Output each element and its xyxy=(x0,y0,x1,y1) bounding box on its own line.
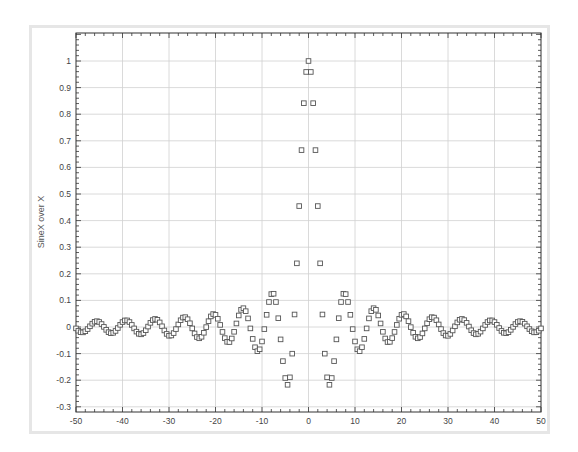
data-point xyxy=(376,313,381,318)
data-point xyxy=(420,331,425,336)
x-tick-label: 50 xyxy=(536,416,546,426)
data-point xyxy=(243,309,248,314)
data-point xyxy=(378,321,383,326)
data-point xyxy=(306,59,311,64)
x-tick-label: -30 xyxy=(163,416,176,426)
data-point xyxy=(206,319,211,324)
data-point xyxy=(267,300,272,305)
data-point xyxy=(188,321,193,326)
data-point xyxy=(392,330,397,335)
y-axis-title: SineX over X xyxy=(36,196,46,249)
data-point xyxy=(290,351,295,356)
data-point xyxy=(436,322,441,327)
data-point xyxy=(395,323,400,328)
data-point xyxy=(329,376,334,381)
data-point xyxy=(346,300,351,305)
data-point xyxy=(336,316,341,321)
data-point xyxy=(260,339,265,344)
data-point xyxy=(422,326,427,331)
x-tick-label: -10 xyxy=(256,416,269,426)
data-point xyxy=(232,329,237,334)
data-point xyxy=(322,351,327,356)
data-point xyxy=(248,326,253,331)
data-point xyxy=(318,261,323,266)
y-tick-label: 0.4 xyxy=(59,216,71,226)
grid-lines xyxy=(76,33,541,412)
data-point xyxy=(274,300,279,305)
x-tick-label: 10 xyxy=(350,416,360,426)
data-point xyxy=(295,261,300,266)
data-point xyxy=(350,327,355,332)
y-tick-label: -0.2 xyxy=(56,375,71,385)
data-point xyxy=(381,329,386,334)
x-axis: -50-40-30-20-1001020304050 xyxy=(70,33,546,426)
data-point xyxy=(409,325,414,330)
data-point xyxy=(316,204,321,209)
data-point xyxy=(327,382,332,387)
y-tick-label: 1 xyxy=(66,56,71,66)
data-point xyxy=(236,313,241,318)
y-tick-label: 0.8 xyxy=(59,109,71,119)
data-point xyxy=(292,312,297,317)
data-point xyxy=(299,148,304,153)
data-point xyxy=(311,101,316,106)
data-point xyxy=(353,339,358,344)
data-point xyxy=(334,337,339,342)
x-tick-label: 0 xyxy=(306,416,311,426)
data-point xyxy=(174,327,179,332)
data-point xyxy=(302,101,307,106)
data-point xyxy=(190,326,195,331)
data-point xyxy=(204,325,209,330)
data-point xyxy=(325,375,330,380)
y-tick-label: 0.5 xyxy=(59,189,71,199)
data-point xyxy=(285,382,290,387)
y-tick-label: -0.3 xyxy=(56,402,71,412)
data-point xyxy=(250,337,255,342)
data-point xyxy=(320,312,325,317)
data-point xyxy=(288,375,293,380)
data-point xyxy=(406,319,411,324)
data-point xyxy=(313,148,318,153)
y-tick-label: 0.6 xyxy=(59,162,71,172)
data-point xyxy=(218,323,223,328)
data-point xyxy=(539,326,544,331)
data-point xyxy=(216,316,221,321)
data-point xyxy=(276,316,281,321)
data-point xyxy=(404,314,409,319)
data-point xyxy=(339,300,344,305)
data-point xyxy=(364,326,369,331)
y-tick-label: 0.9 xyxy=(59,83,71,93)
x-tick-label: -20 xyxy=(209,416,222,426)
y-tick-label: 0.3 xyxy=(59,242,71,252)
data-point xyxy=(264,313,269,318)
data-point xyxy=(281,359,286,364)
data-point xyxy=(220,330,225,335)
y-tick-label: 0.1 xyxy=(59,295,71,305)
y-tick-label: 0.2 xyxy=(59,269,71,279)
data-point xyxy=(229,336,234,341)
data-point xyxy=(362,337,367,342)
data-point xyxy=(360,345,365,350)
x-tick-label: 20 xyxy=(397,416,407,426)
data-point xyxy=(343,292,348,297)
data-point xyxy=(202,330,207,335)
data-point xyxy=(297,204,302,209)
y-tick-label: -0.1 xyxy=(56,349,71,359)
data-point xyxy=(332,359,337,364)
y-tick-label: 0.7 xyxy=(59,136,71,146)
data-point xyxy=(257,347,262,352)
data-point xyxy=(390,336,395,341)
data-point xyxy=(367,316,372,321)
scatter-chart: -50-40-30-20-1001020304050 -0.3-0.2-0.10… xyxy=(0,0,578,452)
y-axis: -0.3-0.2-0.100.10.20.30.40.50.60.70.80.9… xyxy=(56,34,541,411)
x-tick-label: -40 xyxy=(116,416,129,426)
data-point xyxy=(271,291,276,296)
data-point xyxy=(283,376,288,381)
data-point xyxy=(246,316,251,321)
x-tick-label: 40 xyxy=(490,416,500,426)
data-point xyxy=(234,321,239,326)
data-point xyxy=(309,70,314,75)
x-tick-label: 30 xyxy=(443,416,453,426)
data-point xyxy=(262,327,267,332)
y-tick-label: 0 xyxy=(66,322,71,332)
